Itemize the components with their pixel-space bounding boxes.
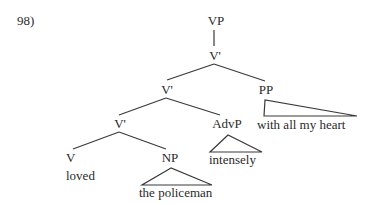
node-np: NP <box>162 151 179 165</box>
node-vbar-mid: V' <box>161 83 173 97</box>
branch-vbar-low-np <box>119 132 166 149</box>
advp-text: intensely <box>209 153 256 167</box>
branch-vbar-low-v <box>73 132 119 149</box>
branch-vbar-mid-vbar-low <box>119 98 166 115</box>
node-vbar-top: V' <box>209 49 221 63</box>
branch-vbar-top-vbar-mid <box>167 64 214 80</box>
np-text: the policeman <box>139 186 212 200</box>
triangle-np <box>142 168 212 185</box>
v-text: loved <box>66 169 95 183</box>
node-advp: AdvP <box>212 117 242 131</box>
node-v: V <box>66 151 75 165</box>
node-pp: PP <box>259 83 273 97</box>
node-vbar-low: V' <box>114 117 126 131</box>
example-number: 98) <box>17 14 34 28</box>
branch-vbar-top-pp <box>214 64 265 81</box>
tree-branches <box>0 0 374 204</box>
triangle-pp <box>264 100 357 116</box>
pp-text: with all my heart <box>257 118 345 132</box>
branch-vbar-mid-advp <box>166 98 220 115</box>
node-vp: VP <box>208 14 225 28</box>
triangle-advp <box>210 135 262 152</box>
